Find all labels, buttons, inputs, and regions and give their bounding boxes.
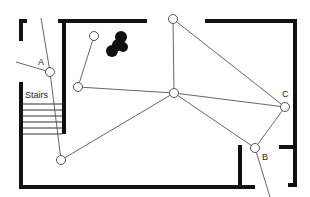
node-c-label: C <box>282 89 289 99</box>
node-1 <box>90 32 99 41</box>
node-a-label: A <box>38 57 44 67</box>
wall-left-top <box>21 21 27 41</box>
nodes <box>46 15 290 165</box>
edges <box>16 18 285 197</box>
wall-top-right <box>205 21 295 147</box>
floor-plan-diagram: Stairs A C B <box>0 0 310 197</box>
obstacle-blob <box>106 31 128 57</box>
node-3 <box>57 156 66 165</box>
node-4 <box>169 15 178 24</box>
node-b-label: B <box>262 152 268 162</box>
wall-right-bottom <box>288 147 295 185</box>
stairs-label: Stairs <box>25 90 49 100</box>
node-c <box>281 103 290 112</box>
node-b <box>251 144 260 153</box>
node-5 <box>170 89 179 98</box>
node-2 <box>74 83 83 92</box>
node-a <box>46 68 55 77</box>
